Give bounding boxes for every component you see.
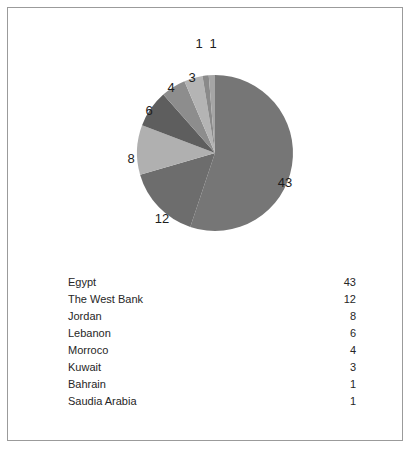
data-label-saudia-arabia: 1 [209, 36, 216, 51]
legend-table: Egypt43The West Bank12Jordan8Lebanon6Mor… [68, 274, 356, 410]
legend-value: 6 [316, 325, 356, 342]
legend-category: Saudia Arabia [68, 393, 316, 410]
legend-row: Saudia Arabia1 [68, 393, 356, 410]
legend-row: The West Bank12 [68, 291, 356, 308]
pie-slices [137, 75, 293, 231]
data-label-the-west-bank: 12 [155, 211, 169, 226]
legend-row: Jordan8 [68, 308, 356, 325]
legend-category: Kuwait [68, 359, 316, 376]
legend-category: The West Bank [68, 291, 316, 308]
data-label-morroco: 4 [167, 80, 174, 95]
pie-chart: 43 12 8 6 4 3 1 1 [8, 8, 411, 263]
legend-row: Egypt43 [68, 274, 356, 291]
legend-category: Lebanon [68, 325, 316, 342]
legend-value: 4 [316, 342, 356, 359]
data-label-kuwait: 3 [188, 70, 195, 85]
legend-row: Kuwait3 [68, 359, 356, 376]
legend-category: Jordan [68, 308, 316, 325]
legend-value: 8 [316, 308, 356, 325]
data-label-jordan: 8 [127, 151, 134, 166]
legend-table-body: Egypt43The West Bank12Jordan8Lebanon6Mor… [68, 274, 356, 410]
pie-chart-area: 43 12 8 6 4 3 1 1 [8, 8, 411, 263]
legend-category: Egypt [68, 274, 316, 291]
data-label-bahrain: 1 [195, 36, 202, 51]
legend-value: 3 [316, 359, 356, 376]
legend-row: Morroco4 [68, 342, 356, 359]
legend-value: 12 [316, 291, 356, 308]
chart-page: 43 12 8 6 4 3 1 1 Egypt43The West Bank12… [0, 0, 411, 449]
legend-value: 1 [316, 393, 356, 410]
legend-category: Bahrain [68, 376, 316, 393]
legend-value: 43 [316, 274, 356, 291]
page-border-frame: 43 12 8 6 4 3 1 1 Egypt43The West Bank12… [7, 7, 403, 441]
legend-value: 1 [316, 376, 356, 393]
data-label-egypt: 43 [278, 175, 292, 190]
legend-category: Morroco [68, 342, 316, 359]
data-label-lebanon: 6 [145, 103, 152, 118]
legend-row: Bahrain1 [68, 376, 356, 393]
legend-row: Lebanon6 [68, 325, 356, 342]
